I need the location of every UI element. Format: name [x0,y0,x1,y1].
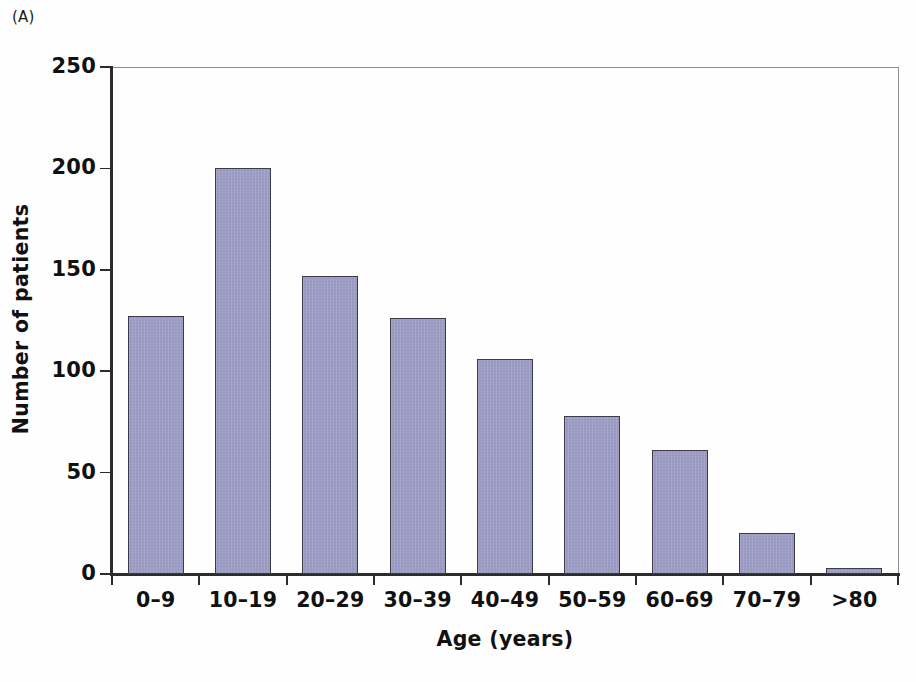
y-axis-tick [100,168,111,170]
x-axis-tick-label: 60–69 [636,588,723,612]
x-axis-tick [286,574,288,585]
y-axis-tick [100,573,111,575]
x-axis-tick [810,574,812,585]
bar [477,359,533,574]
x-axis-tick-label: 50–59 [549,588,636,612]
x-axis-tick [548,574,550,585]
y-axis-tick [100,66,111,68]
figure-panel-a: (A) Number of patients 050100150200250 0… [0,0,916,682]
y-axis-line [110,66,113,576]
bar [390,318,446,574]
x-axis-tick [460,574,462,585]
bar [826,568,882,574]
bar [215,168,271,574]
x-axis-tick [897,574,899,585]
y-axis-tick [100,269,111,271]
bar [652,450,708,574]
x-axis-title: Age (years) [112,627,898,651]
y-axis-tick-label: 0 [0,561,96,585]
bar [564,416,620,574]
y-axis-tick-label: 50 [0,460,96,484]
y-axis-tick-label: 100 [0,358,96,382]
x-axis-tick-label: 30–39 [374,588,461,612]
x-axis-tick [198,574,200,585]
x-axis-tick-label: 0–9 [112,588,199,612]
y-axis-tick-label: 250 [0,54,96,78]
bar [128,316,184,574]
x-axis-tick-label: 10–19 [199,588,286,612]
x-axis-tick [722,574,724,585]
bar [739,533,795,574]
y-axis-title: Number of patients [1,66,41,573]
x-axis-tick-label: 20–29 [287,588,374,612]
x-axis-tick-label: 40–49 [461,588,548,612]
x-axis-tick [373,574,375,585]
x-axis-tick [111,574,113,585]
x-axis-tick-label: 70–79 [723,588,810,612]
x-axis-tick-label: >80 [811,588,898,612]
y-axis-tick-label: 150 [0,257,96,281]
panel-label: (A) [12,8,35,26]
y-axis-tick [100,370,111,372]
y-axis-tick [100,472,111,474]
bar [302,276,358,574]
y-axis-tick-label: 200 [0,155,96,179]
x-axis-tick [635,574,637,585]
